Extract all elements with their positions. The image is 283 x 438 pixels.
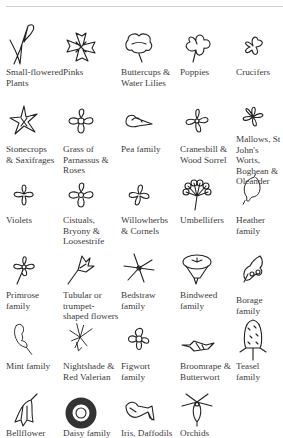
label-orchids: Orchids — [180, 428, 209, 438]
label-figwort: Figwort family — [121, 361, 150, 382]
label-pea-family: Pea family — [121, 144, 161, 155]
iris-icon — [122, 396, 156, 430]
label-small-flowered-plants: Small-flowered Plants — [6, 67, 63, 88]
label-grass-of-parnassus: Grass of Parnassus & Roses — [63, 144, 109, 176]
mallow-icon — [236, 100, 270, 134]
label-pinks: Pinks — [63, 67, 83, 78]
label-primrose: Primrose family — [6, 290, 39, 311]
label-violets: Violets — [6, 215, 32, 226]
label-bellflower: Bellflower — [6, 428, 45, 438]
nightshade-icon — [64, 322, 98, 356]
cistus-icon — [64, 178, 98, 212]
label-daisy: Daisy family — [63, 428, 111, 438]
pea-flower-icon — [122, 104, 156, 138]
label-borage: Borage family — [236, 295, 283, 316]
heather-bell-icon — [236, 172, 270, 206]
mint-lipped-icon — [7, 322, 41, 356]
bedstraw-star-icon — [122, 252, 156, 286]
teasel-icon — [236, 318, 270, 360]
top-divider — [6, 6, 283, 7]
stonecrop-icon — [7, 104, 41, 138]
umbellifer-icon — [180, 178, 214, 212]
label-willowherbs: Willowherbs & Cornels — [121, 215, 168, 236]
cranesbill-icon — [180, 104, 214, 138]
label-broomrape: Broomrape & Butterwort — [180, 361, 231, 382]
pink-flower-icon — [64, 30, 98, 64]
label-bindweed: Bindweed family — [180, 290, 217, 311]
label-cistuals: Cistuals, Bryony & Loosestrife — [63, 215, 104, 247]
bellflower-icon — [7, 392, 41, 428]
small-flowered-plant-icon — [8, 20, 36, 66]
daisy-icon — [64, 396, 98, 430]
label-crucifers: Crucifers — [236, 67, 270, 78]
label-teasel: Teasel family — [236, 361, 260, 382]
figwort-icon — [122, 322, 156, 356]
bindweed-trumpet-icon — [180, 252, 214, 286]
label-stonecrops: Stonecrops & Saxifrages — [6, 144, 54, 165]
orchid-icon — [180, 392, 214, 428]
label-nightshade: Nightshade & Red Valerian — [63, 361, 114, 382]
label-heather: Heather family — [236, 215, 265, 236]
label-tubular: Tubular or trumpet- shaped flowers — [63, 290, 118, 322]
willowherb-icon — [122, 178, 156, 212]
crucifer-icon — [236, 30, 270, 64]
rose-icon — [64, 104, 98, 138]
buttercup-icon — [122, 30, 156, 64]
label-bedstraw: Bedstraw family — [121, 290, 156, 311]
label-buttercups: Buttercups & Water Lilies — [121, 67, 170, 88]
primrose-icon — [7, 252, 41, 286]
broomrape-icon — [180, 330, 214, 364]
label-poppies: Poppies — [180, 67, 209, 78]
tubular-flower-icon — [64, 252, 98, 286]
label-iris: Iris, Daffodils — [121, 428, 172, 438]
borage-icon — [236, 252, 270, 286]
violet-icon — [7, 178, 41, 212]
poppy-icon — [180, 30, 214, 64]
label-cranesbill: Cranesbill & Wood Sorrel — [180, 144, 227, 165]
label-umbellifers: Umbellifers — [180, 215, 224, 226]
label-mint: Mint family — [6, 361, 50, 372]
